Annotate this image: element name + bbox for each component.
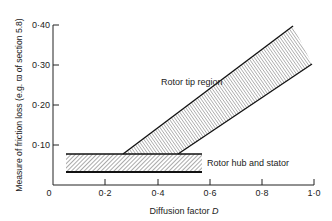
y-tick-label: 0·30 — [32, 60, 50, 70]
x-tick-labels: 0 0·2 0·4 0·6 0·8 1·0 — [46, 188, 320, 198]
rotor-hub-label: Rotor hub and stator — [207, 158, 289, 168]
x-axis-label: Diffusion factor D — [150, 206, 219, 216]
x-tick-label: 0·8 — [255, 188, 268, 198]
y-axis-label: Measure of friction loss (e.g. ϖ of sect… — [14, 18, 24, 192]
rotor-hub-band — [66, 154, 202, 172]
x-tick-label: 0·4 — [151, 188, 164, 198]
x-tick-label: 0·2 — [98, 188, 111, 198]
rotor-tip-band — [123, 26, 312, 154]
rotor-tip-label: Rotor tip region — [161, 77, 223, 87]
y-tick-label: 0·10 — [32, 140, 50, 150]
friction-loss-chart: 0·40 0·30 0·20 0·10 0 0·2 0·4 0·6 0·8 1·… — [0, 0, 332, 221]
y-tick-label: 0·40 — [32, 20, 50, 30]
x-tick-label: 0 — [46, 188, 51, 198]
y-tick-labels: 0·40 0·30 0·20 0·10 — [32, 20, 50, 150]
x-tick-label: 0·6 — [203, 188, 216, 198]
x-tick-label: 1·0 — [307, 188, 320, 198]
y-tick-label: 0·20 — [32, 100, 50, 110]
